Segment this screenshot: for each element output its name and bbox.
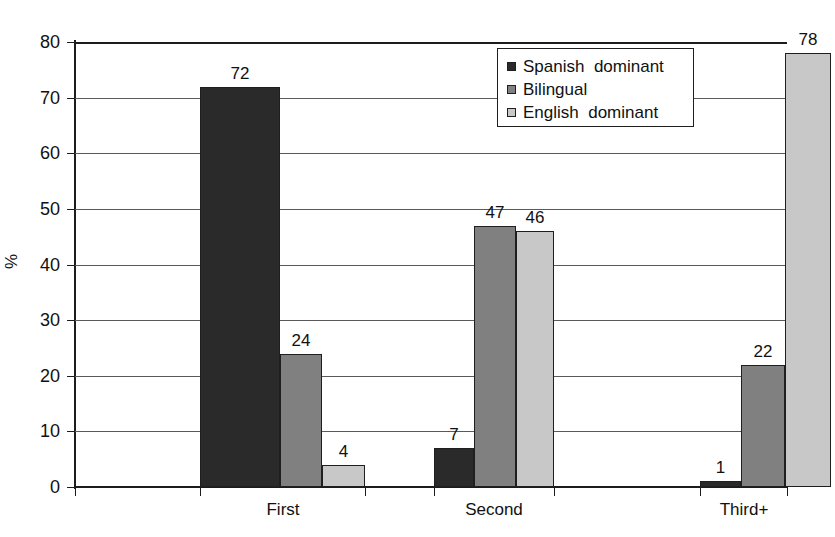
bar[interactable] [741,365,785,487]
bar[interactable] [516,231,554,487]
gridline [75,209,787,210]
bar-value-label: 24 [261,332,341,350]
y-axis-title: % [8,253,30,275]
gridline [75,265,787,266]
x-tick-mark [787,488,788,496]
y-tick-label: 50 [14,200,60,218]
legend-item-label: Bilingual [523,81,587,99]
bar-value-label: 46 [495,209,575,227]
y-tick-mark [67,42,74,43]
x-tick-mark [554,488,555,496]
x-tick-label: First [213,500,353,519]
y-tick-mark [67,209,74,210]
y-tick-mark [67,431,74,432]
gridline [75,376,787,377]
legend-item-label: Spanish dominant [523,58,664,76]
y-tick-label: 80 [14,33,60,51]
bar-value-label: 78 [768,31,835,49]
x-tick-label: Third+ [674,500,814,519]
x-tick-mark [365,488,366,496]
x-tick-mark [700,488,701,496]
bar[interactable] [434,448,474,487]
y-tick-mark [67,98,74,99]
y-tick-mark [67,153,74,154]
legend-item[interactable]: Bilingual [507,78,693,101]
bar-value-label: 4 [304,443,384,461]
x-tick-mark [75,488,76,496]
bar[interactable] [322,465,365,487]
bar[interactable] [700,481,741,487]
y-tick-label: 20 [14,367,60,385]
bar[interactable] [200,87,280,488]
bar[interactable] [280,354,322,488]
x-tick-mark [200,488,201,496]
bar[interactable] [785,53,831,487]
y-tick-mark [67,265,74,266]
y-axis-title-text: % [3,254,20,269]
bar[interactable] [474,226,516,487]
y-tick-label: 60 [14,144,60,162]
legend-swatch-icon [507,62,516,71]
legend-swatch-icon [507,108,516,117]
y-tick-label: 10 [14,422,60,440]
legend-item[interactable]: English dominant [507,101,693,124]
y-tick-mark [67,376,74,377]
gridline [75,153,787,154]
bar-value-label: 72 [200,65,280,83]
gridline [75,42,787,44]
y-tick-mark [67,487,74,488]
y-tick-label: 30 [14,311,60,329]
y-tick-label: 70 [14,89,60,107]
gridline [75,320,787,321]
x-tick-label: Second [424,500,564,519]
y-tick-mark [67,320,74,321]
legend-item[interactable]: Spanish dominant [507,55,693,78]
legend-swatch-icon [507,85,516,94]
x-tick-mark [434,488,435,496]
y-tick-label: 0 [14,478,60,496]
legend: Spanish dominant Bilingual English domin… [497,48,694,127]
legend-item-label: English dominant [523,104,658,122]
